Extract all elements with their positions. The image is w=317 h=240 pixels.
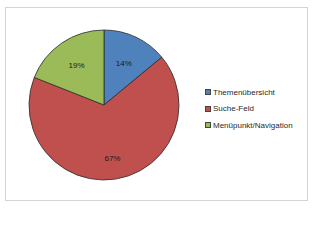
- slice-value-label: 19%: [69, 61, 85, 70]
- legend-swatch-red: [205, 106, 211, 112]
- legend-item-suche-feld: Suche-Feld: [205, 101, 293, 118]
- legend-label: Suche-Feld: [213, 104, 254, 113]
- legend: Themenübersicht Suche-Feld Menüpunkt/Nav…: [205, 84, 293, 134]
- legend-swatch-blue: [205, 89, 211, 95]
- slice-value-label: 14%: [116, 59, 132, 68]
- legend-label: Menüpunkt/Navigation: [213, 121, 293, 130]
- legend-swatch-green: [205, 122, 211, 128]
- legend-item-themenuebersicht: Themenübersicht: [205, 84, 293, 101]
- legend-label: Themenübersicht: [213, 88, 275, 97]
- legend-item-menuepunkt-navigation: Menüpunkt/Navigation: [205, 117, 293, 134]
- slice-value-label: 67%: [104, 154, 120, 163]
